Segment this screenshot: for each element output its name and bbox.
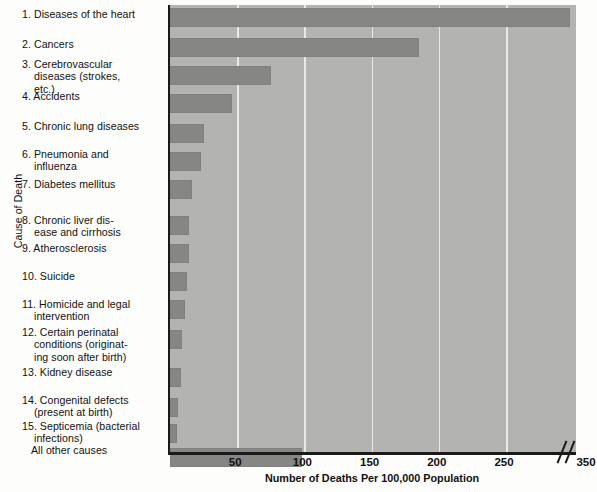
category-label-suicide: 10. Suicide	[22, 270, 168, 282]
x-axis-line	[168, 452, 576, 455]
bar	[170, 424, 177, 443]
category-label-heart: 1. Diseases of the heart	[22, 8, 168, 20]
bar	[170, 8, 570, 27]
category-label-line1: 7. Diabetes mellitus	[22, 178, 115, 190]
bar	[170, 66, 271, 85]
category-label-line2: diseases (strokes,	[22, 70, 168, 82]
x-tick-label-100: 100	[293, 456, 312, 468]
category-label-line1: All other causes	[31, 444, 107, 456]
bar	[170, 94, 232, 113]
category-label-line1: 1. Diseases of the heart	[22, 8, 135, 20]
bar	[170, 244, 189, 263]
category-label-line1: 6. Pneumonia and	[22, 148, 109, 160]
category-label-line1: 14. Congenital defects	[22, 394, 129, 406]
plot-inner	[170, 5, 576, 453]
plot-area	[168, 5, 576, 453]
bar	[170, 38, 419, 57]
category-label-other: All other causes	[22, 444, 168, 456]
category-label-lung: 5. Chronic lung diseases	[22, 120, 168, 132]
bar	[170, 180, 192, 199]
category-label-line3: ing soon after birth)	[22, 351, 168, 363]
bar	[170, 368, 181, 387]
category-label-line1: 10. Suicide	[22, 270, 75, 282]
bar	[170, 330, 182, 349]
category-label-athero: 9. Atherosclerosis	[22, 242, 168, 254]
bar	[170, 300, 185, 319]
category-label-line1: 15. Septicemia (bacterial	[22, 420, 140, 432]
category-label-line2: conditions (originat-	[22, 338, 168, 350]
gridline-200	[439, 5, 441, 453]
category-label-diabetes: 7. Diabetes mellitus	[22, 178, 168, 190]
category-label-line1: 2. Cancers	[22, 38, 74, 50]
category-label-line1: 12. Certain perinatal	[22, 326, 118, 338]
category-label-accidents: 4. Accidents	[22, 90, 168, 102]
category-label-line1: 5. Chronic lung diseases	[22, 120, 139, 132]
bar	[170, 124, 204, 143]
category-label-line2: ease and cirrhosis	[22, 226, 168, 238]
category-label-liver: 8. Chronic liver dis-ease and cirrhosis	[22, 214, 168, 239]
category-label-perinatal: 12. Certain perinatalconditions (origina…	[22, 326, 168, 363]
category-label-congenital: 14. Congenital defects(present at birth)	[22, 394, 168, 419]
gridline-150	[372, 5, 374, 453]
category-label-column: 1. Diseases of the heart2. Cancers3. Cer…	[22, 0, 168, 452]
bar	[170, 272, 187, 291]
category-label-line1: 9. Atherosclerosis	[22, 242, 107, 254]
category-label-line1: 8. Chronic liver dis-	[22, 214, 114, 226]
x-tick-label-250: 250	[494, 456, 513, 468]
category-label-line2: infections)	[22, 432, 168, 444]
category-label-line1: 4. Accidents	[22, 90, 80, 102]
gridline-250	[506, 5, 508, 453]
category-label-septicemia: 15. Septicemia (bacterialinfections)	[22, 420, 168, 445]
bar	[170, 398, 178, 417]
category-label-line1: 11. Homicide and legal	[22, 298, 130, 310]
category-label-homicide: 11. Homicide and legalintervention	[22, 298, 168, 323]
category-label-line1: 13. Kidney disease	[22, 366, 112, 378]
x-tick-label-150: 150	[360, 456, 379, 468]
category-label-cancers: 2. Cancers	[22, 38, 168, 50]
gridline-100	[304, 5, 306, 453]
category-label-line1: 3. Cerebrovascular	[22, 58, 112, 70]
x-axis-title: Number of Deaths Per 100,000 Population	[168, 472, 576, 484]
bar	[170, 216, 189, 235]
x-tick-label-200: 200	[427, 456, 446, 468]
bar-chart: Cause of Death 1. Diseases of the heart2…	[0, 0, 597, 492]
category-label-line2: intervention	[22, 310, 168, 322]
category-label-pneumonia: 6. Pneumonia andinfluenza	[22, 148, 168, 173]
category-label-line2: influenza	[22, 160, 168, 172]
x-tick-label-350: 350	[576, 456, 595, 468]
category-label-kidney: 13. Kidney disease	[22, 366, 168, 378]
bar	[170, 152, 201, 171]
category-label-line2: (present at birth)	[22, 406, 168, 418]
x-tick-label-50: 50	[229, 456, 242, 468]
